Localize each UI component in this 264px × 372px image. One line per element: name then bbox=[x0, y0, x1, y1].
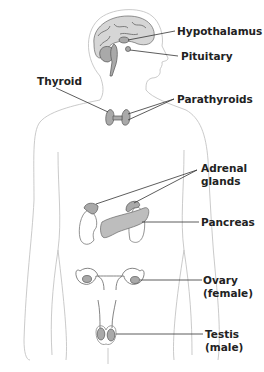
testis-right-organ bbox=[107, 329, 115, 341]
testis-left-organ bbox=[97, 328, 105, 340]
label-hypothalamus: Hypothalamus bbox=[177, 25, 262, 37]
label-testis-line1: Testis bbox=[205, 328, 239, 340]
hip-left bbox=[58, 250, 67, 360]
adrenal-left-organ bbox=[84, 203, 98, 214]
uterus-tubes bbox=[80, 268, 140, 276]
shoulder-left bbox=[24, 100, 100, 360]
neck-left bbox=[100, 76, 103, 100]
ovary-left-organ bbox=[83, 276, 92, 283]
kidney-left bbox=[79, 210, 96, 244]
ovary-right-organ bbox=[131, 277, 140, 284]
body-outline bbox=[24, 10, 219, 364]
hypothalamus-organ bbox=[119, 37, 129, 43]
pituitary-organ bbox=[126, 47, 131, 52]
parathyroid-leader-1 bbox=[128, 99, 174, 114]
thyroid-isthmus bbox=[113, 116, 122, 120]
adrenal-leader-1 bbox=[96, 170, 197, 204]
label-thyroid: Thyroid bbox=[37, 75, 82, 87]
vas-deferens bbox=[98, 300, 116, 328]
pituitary-leader bbox=[130, 50, 178, 56]
thyroid-organ bbox=[106, 110, 130, 126]
pancreas-organ bbox=[101, 208, 149, 238]
label-ovary-line1: Ovary bbox=[203, 274, 238, 286]
endocrine-diagram: Hypothalamus Pituitary Thyroid Parathyro… bbox=[0, 0, 264, 372]
label-parathyroids: Parathyroids bbox=[177, 93, 253, 105]
adrenal-leader-2 bbox=[134, 170, 197, 203]
brain bbox=[94, 16, 154, 76]
parathyroid-leader-2 bbox=[128, 99, 174, 120]
label-pancreas: Pancreas bbox=[201, 216, 255, 228]
label-testis-line2: (male) bbox=[205, 341, 243, 353]
label-ovary-line2: (female) bbox=[203, 287, 253, 299]
label-adrenal-line1: Adrenal bbox=[201, 162, 247, 174]
thyroid-lobe-right bbox=[122, 110, 130, 126]
label-pituitary: Pituitary bbox=[181, 50, 233, 62]
label-adrenal-line2: glands bbox=[201, 175, 240, 187]
hip-right bbox=[173, 250, 184, 360]
